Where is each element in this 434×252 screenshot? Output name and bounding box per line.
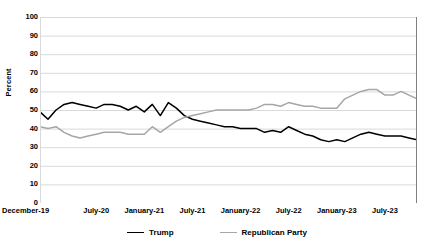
y-axis-tick: 30 bbox=[16, 143, 38, 151]
chart-legend: Trump Republican Party bbox=[0, 228, 434, 237]
x-axis-tick: January-21 bbox=[124, 206, 164, 215]
y-axis-tick: 100 bbox=[16, 13, 38, 21]
x-axis-tick: July-20 bbox=[83, 206, 109, 215]
series-lines bbox=[40, 90, 417, 142]
y-axis-tick: 70 bbox=[16, 69, 38, 77]
series-line-republican-party bbox=[40, 90, 417, 138]
legend-label-republican-party: Republican Party bbox=[242, 228, 307, 237]
plot-area bbox=[40, 17, 417, 203]
y-axis-tick: 10 bbox=[16, 180, 38, 188]
y-axis-tick: 80 bbox=[16, 50, 38, 58]
legend-item-trump: Trump bbox=[127, 228, 173, 237]
y-axis-tick: 40 bbox=[16, 125, 38, 133]
x-axis-tick: January-23 bbox=[317, 206, 357, 215]
legend-swatch-republican-party bbox=[220, 232, 237, 233]
x-axis-tick: December-19 bbox=[2, 206, 49, 215]
x-axis-tick: July-21 bbox=[179, 206, 205, 215]
y-axis-tick: 20 bbox=[16, 162, 38, 170]
legend-item-republican-party: Republican Party bbox=[220, 228, 307, 237]
y-axis-tick: 50 bbox=[16, 106, 38, 114]
line-chart: Percent 1009080706050403020100 December-… bbox=[0, 0, 434, 252]
legend-swatch-trump bbox=[127, 232, 144, 233]
y-axis-tick: 90 bbox=[16, 32, 38, 40]
x-axis-tick: January-22 bbox=[221, 206, 261, 215]
y-axis-tick: 60 bbox=[16, 87, 38, 95]
x-axis-tick: July-23 bbox=[372, 206, 398, 215]
x-axis-tick: July-22 bbox=[276, 206, 302, 215]
legend-label-trump: Trump bbox=[149, 228, 173, 237]
plot-svg bbox=[40, 17, 417, 203]
series-line-trump bbox=[40, 103, 417, 142]
y-axis-title: Percent bbox=[4, 85, 13, 97]
